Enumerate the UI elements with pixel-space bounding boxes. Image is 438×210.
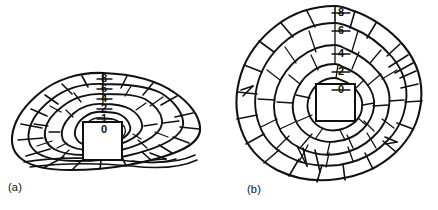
contour-label-b-0: 0 [338,83,344,95]
caption-panel-a: (a) [8,181,22,193]
contour-label-b-4: 4 [338,47,345,59]
contour-label-b-6: 6 [338,24,344,36]
caption-panel-b: (b) [247,183,261,195]
figure-root: 8 6 4 2 1 0 [0,0,438,210]
contour-label-b-2: 2 [338,65,344,77]
panel-b-drawing: 8 6 4 2 0 [219,0,438,210]
contour-label-b-8: 8 [338,6,344,18]
panel-a-drawing: 8 6 4 2 1 0 [0,0,219,210]
contour-label-a-0: 0 [101,123,107,135]
